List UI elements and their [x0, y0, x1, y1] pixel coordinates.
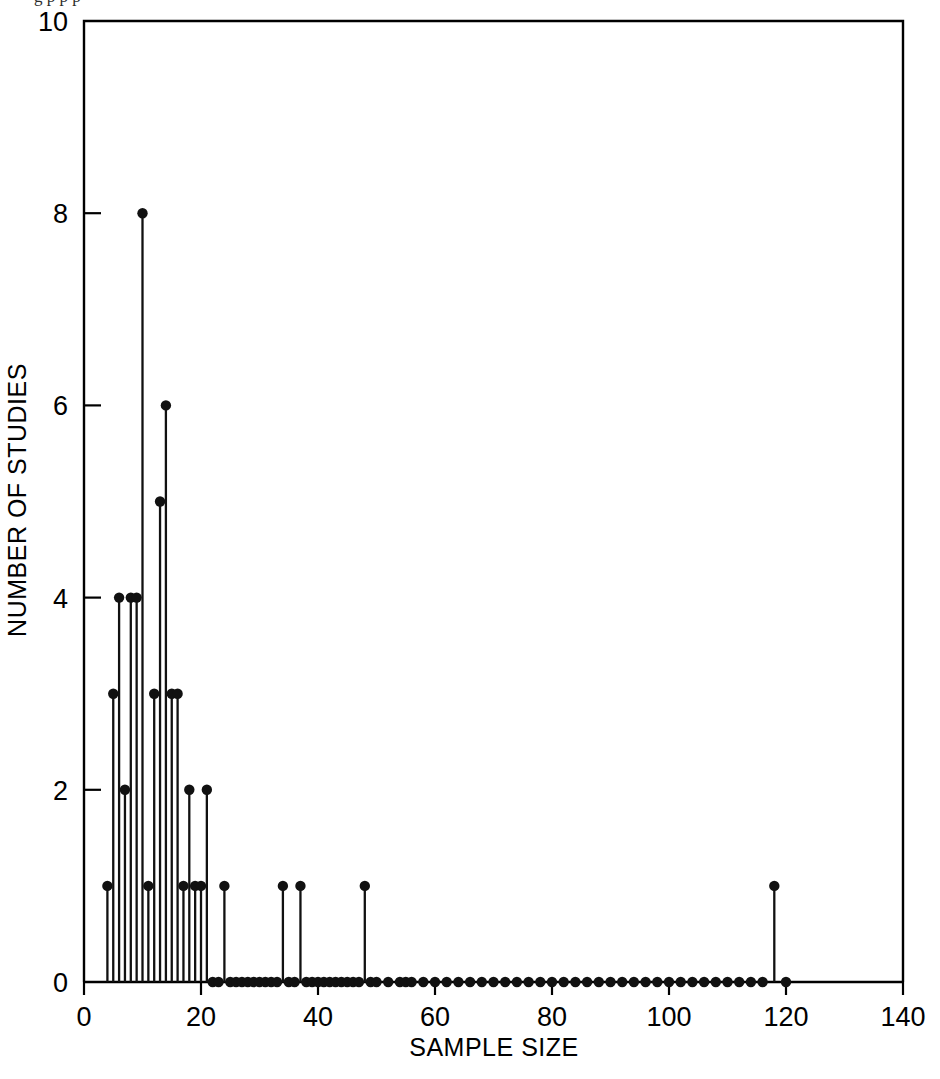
data-point — [711, 977, 721, 987]
data-point — [781, 977, 791, 987]
data-point — [734, 977, 744, 987]
data-point — [757, 977, 767, 987]
y-tick-label: 4 — [53, 584, 68, 614]
data-point — [272, 977, 282, 987]
data-point — [453, 977, 463, 987]
data-stems — [102, 208, 791, 987]
data-point — [354, 977, 364, 987]
data-point — [172, 689, 182, 699]
y-tick-label: 0 — [53, 968, 68, 998]
data-point — [213, 977, 223, 987]
data-point — [360, 881, 370, 891]
y-tick-label: 10 — [38, 7, 68, 37]
x-tick-label: 100 — [646, 1002, 691, 1032]
y-axis-ticks — [84, 213, 101, 790]
data-point — [582, 977, 592, 987]
data-point — [108, 689, 118, 699]
x-tick-label: 120 — [763, 1002, 808, 1032]
data-point — [769, 881, 779, 891]
y-tick-label: 8 — [53, 199, 68, 229]
data-point — [155, 496, 165, 506]
x-tick-label: 80 — [537, 1002, 567, 1032]
data-point — [102, 881, 112, 891]
data-point — [500, 977, 510, 987]
x-axis-title: SAMPLE SIZE — [409, 1033, 578, 1061]
data-point — [594, 977, 604, 987]
data-point — [535, 977, 545, 987]
data-point — [371, 977, 381, 987]
data-point — [178, 881, 188, 891]
data-point — [295, 881, 305, 891]
data-point — [746, 977, 756, 987]
data-point — [149, 689, 159, 699]
data-point — [418, 977, 428, 987]
y-tick-label: 6 — [53, 391, 68, 421]
data-point — [406, 977, 416, 987]
data-point — [278, 881, 288, 891]
data-point — [131, 592, 141, 602]
data-point — [161, 400, 171, 410]
data-point — [143, 881, 153, 891]
data-point — [699, 977, 709, 987]
data-point — [137, 208, 147, 218]
data-point — [676, 977, 686, 987]
y-axis-tick-labels: 0246810 — [38, 7, 68, 998]
data-point — [664, 977, 674, 987]
data-point — [652, 977, 662, 987]
data-point — [114, 592, 124, 602]
data-point — [383, 977, 393, 987]
data-point — [202, 785, 212, 795]
data-point — [629, 977, 639, 987]
figure-page: g p p p 020406080100120140 0246810 SAMPL… — [0, 0, 940, 1079]
x-tick-label: 20 — [186, 1002, 216, 1032]
data-point — [722, 977, 732, 987]
data-point — [477, 977, 487, 987]
x-tick-label: 0 — [76, 1002, 91, 1032]
x-tick-label: 60 — [420, 1002, 450, 1032]
x-axis-tick-labels: 020406080100120140 — [76, 1002, 925, 1032]
data-point — [559, 977, 569, 987]
x-tick-label: 140 — [880, 1002, 925, 1032]
data-point — [442, 977, 452, 987]
data-point — [289, 977, 299, 987]
data-point — [547, 977, 557, 987]
data-point — [512, 977, 522, 987]
data-point — [640, 977, 650, 987]
y-axis-title: NUMBER OF STUDIES — [3, 363, 31, 637]
data-point — [120, 785, 130, 795]
data-point — [196, 881, 206, 891]
data-point — [570, 977, 580, 987]
x-tick-label: 40 — [303, 1002, 333, 1032]
chart-svg: 020406080100120140 0246810 SAMPLE SIZE N… — [0, 0, 940, 1079]
data-point — [687, 977, 697, 987]
data-point — [184, 785, 194, 795]
data-point — [605, 977, 615, 987]
y-tick-label: 2 — [53, 776, 68, 806]
data-point — [430, 977, 440, 987]
data-point — [465, 977, 475, 987]
data-point — [523, 977, 533, 987]
data-point — [488, 977, 498, 987]
data-point — [617, 977, 627, 987]
stem-plot-chart: 020406080100120140 0246810 SAMPLE SIZE N… — [0, 0, 940, 1079]
data-point — [219, 881, 229, 891]
